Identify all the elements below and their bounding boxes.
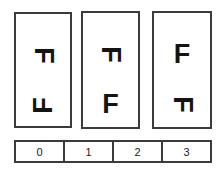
glyph-panel1-top: F	[83, 41, 138, 68]
glyph-panel2-top: F	[154, 41, 210, 68]
index-cell-label: 0	[36, 146, 42, 158]
glyph-panel0-top: F	[16, 42, 70, 69]
glyph-panel1-bottom: F	[83, 91, 138, 118]
stimulus-panel-2[interactable]: F F	[152, 11, 212, 129]
glyph-char: F	[174, 41, 191, 68]
index-cell-label: 3	[183, 146, 189, 158]
index-cell-3[interactable]: 3	[163, 142, 210, 161]
index-cell-0[interactable]: 0	[16, 142, 65, 161]
index-cell-label: 2	[134, 146, 140, 158]
stimulus-panel-1[interactable]: F F	[81, 11, 140, 129]
index-bar[interactable]: 0 1 2 3	[14, 140, 212, 163]
glyph-char: F	[102, 91, 119, 118]
glyph-char: F	[30, 47, 57, 64]
index-cell-label: 1	[85, 146, 91, 158]
glyph-panel0-bottom: F	[16, 92, 70, 119]
glyph-char: F	[169, 96, 196, 113]
figure-canvas: F F F F F F 0 1 2 3	[0, 0, 221, 171]
glyph-panel2-bottom: F	[154, 91, 210, 118]
index-cell-1[interactable]: 1	[65, 142, 114, 161]
stimulus-panel-0[interactable]: F F	[14, 12, 72, 128]
glyph-char: F	[30, 97, 57, 114]
index-cell-2[interactable]: 2	[114, 142, 163, 161]
glyph-char: F	[97, 46, 124, 63]
